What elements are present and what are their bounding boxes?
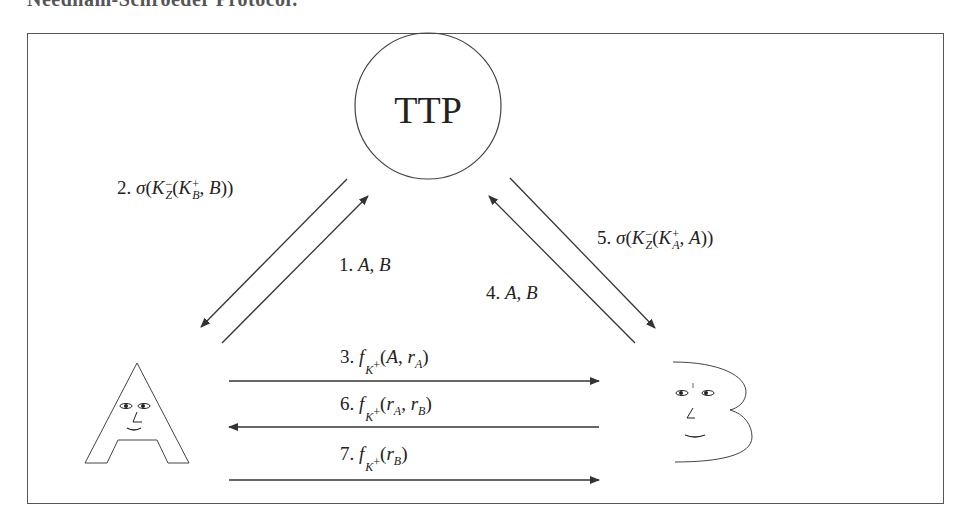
b-nose-icon (687, 408, 695, 418)
ttp-label: TTP (378, 88, 478, 132)
msg-1-label: 1. A, B (339, 255, 391, 274)
party-b-figure (673, 362, 752, 462)
protocol-diagram (0, 0, 972, 528)
msg-4-label: 4. A, B (486, 283, 538, 302)
arrow-msg-2 (201, 179, 347, 327)
a-mouth-icon (127, 428, 141, 430)
a-nose-icon (133, 412, 142, 422)
arrow-msg-4 (489, 196, 635, 343)
b-mouth-icon (685, 435, 705, 437)
msg-5-label: 5. σ(K−Z(K+A, A)) (597, 228, 713, 251)
msg-6-label: 6. f K+(rA, rB) (340, 394, 432, 417)
arrow-msg-5 (510, 178, 655, 328)
msg-7-label: 7. f K+(rB) (340, 444, 407, 467)
party-a-figure (85, 363, 189, 463)
msg-3-label: 3. f K+(A, rA) (340, 347, 429, 370)
msg-2-label: 2. σ(K−Z(K+B, B)) (117, 178, 233, 201)
